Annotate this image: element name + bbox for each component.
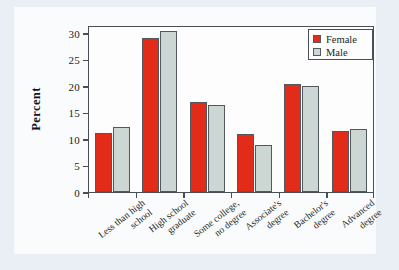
- chart-legend: Female Male: [308, 29, 373, 60]
- bar-male: [302, 86, 319, 192]
- x-axis-label-cell: Associate'sdegree: [231, 193, 279, 270]
- figure-container: Percent 051015202530 Less than highschoo…: [0, 0, 399, 270]
- x-axis-label-cell: Advanceddegree: [326, 193, 374, 270]
- y-tick: 30: [69, 28, 88, 40]
- bar-male: [160, 31, 177, 192]
- y-axis-ticks: 051015202530: [14, 26, 88, 193]
- bar-female: [190, 102, 207, 192]
- bar-female: [284, 84, 301, 192]
- bar-female: [332, 131, 349, 192]
- bar-female: [142, 38, 159, 192]
- x-axis-label-cell: High schoolgraduate: [136, 193, 184, 270]
- bar-group: [184, 27, 231, 192]
- y-tick-label: 0: [74, 187, 80, 199]
- chart-card: Percent 051015202530 Less than highschoo…: [14, 7, 376, 254]
- y-tick: 25: [69, 54, 88, 66]
- x-tick-mark: [279, 193, 280, 198]
- y-tick-label: 10: [69, 134, 80, 146]
- y-tick: 15: [69, 107, 88, 119]
- y-tick-label: 25: [69, 54, 80, 66]
- legend-label-male: Male: [326, 47, 348, 58]
- bar-male: [255, 145, 272, 192]
- y-tick: 5: [74, 160, 88, 172]
- legend-label-female: Female: [326, 34, 357, 45]
- y-tick-label: 5: [74, 160, 80, 172]
- bar-group: [231, 27, 278, 192]
- x-tick-mark: [326, 193, 327, 198]
- bar-group: [89, 27, 136, 192]
- legend-item-male: Male: [313, 46, 368, 58]
- x-axis-label: Advanceddegree: [339, 197, 384, 240]
- y-tick: 0: [74, 187, 88, 199]
- x-tick-mark: [373, 193, 374, 198]
- bar-female: [237, 134, 254, 192]
- bar-male: [350, 129, 367, 192]
- bar-female: [95, 133, 112, 192]
- y-tick: 20: [69, 81, 88, 93]
- y-tick-label: 20: [69, 81, 80, 93]
- x-tick-mark: [88, 193, 89, 198]
- y-tick-label: 15: [69, 107, 80, 119]
- x-axis-label-cell: Less than highschool: [88, 193, 136, 270]
- bar-group: [136, 27, 183, 192]
- x-axis-label-cell: Bachelor'sdegree: [279, 193, 327, 270]
- x-tick-mark: [231, 193, 232, 198]
- bar-male: [208, 105, 225, 192]
- x-tick-mark: [136, 193, 137, 198]
- x-axis-labels: Less than highschoolHigh schoolgraduateS…: [88, 193, 374, 270]
- legend-swatch-male: [313, 48, 321, 56]
- legend-swatch-female: [313, 35, 321, 43]
- y-tick-label: 30: [69, 28, 80, 40]
- x-tick-mark: [183, 193, 184, 198]
- y-tick: 10: [69, 134, 88, 146]
- bar-male: [113, 127, 130, 192]
- x-axis-label-cell: Some college,no degree: [183, 193, 231, 270]
- legend-item-female: Female: [313, 33, 368, 45]
